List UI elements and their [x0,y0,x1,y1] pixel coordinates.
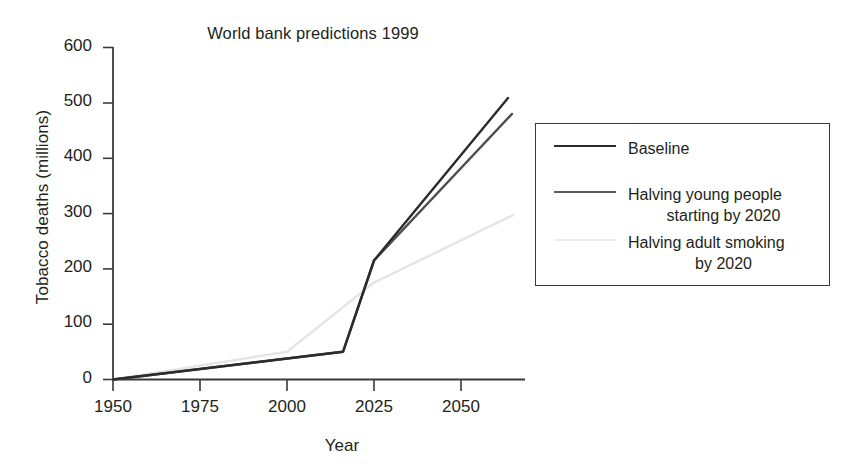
x-tick-label-2050: 2050 [431,397,491,417]
x-tick-label-1975: 1975 [170,397,230,417]
legend-label-halving-adult-smoking: Halving adult smoking by 2020 [628,232,829,274]
legend-label-line2: by 2020 [628,253,819,274]
y-tick-label-100: 100 [48,312,92,332]
chart-figure: World bank predictions 1999 Tobacco deat… [0,0,864,473]
series-line-halving-young-people [113,114,512,380]
legend-label-line1: Halving adult smoking [628,232,819,253]
y-tick-label-200: 200 [48,257,92,277]
x-tick-label-1950: 1950 [83,397,143,417]
x-axis-title: Year [222,436,462,456]
chart-title: World bank predictions 1999 [183,24,443,43]
legend-label-line1: Halving young people [628,184,819,205]
series-line-baseline [113,98,508,380]
y-axis-ticks [103,48,113,380]
y-tick-label-0: 0 [48,368,92,388]
legend: Baseline Halving young people starting b… [535,123,830,286]
x-axis-ticks [113,380,461,392]
legend-label-baseline: Baseline [628,138,829,159]
legend-entry-baseline: Baseline [536,138,829,159]
y-tick-label-300: 300 [48,202,92,222]
legend-swatch-baseline [554,138,616,154]
y-tick-label-600: 600 [48,36,92,56]
legend-swatch-halving-young-people [554,184,616,200]
y-tick-label-500: 500 [48,91,92,111]
y-tick-label-400: 400 [48,146,92,166]
x-tick-label-2000: 2000 [257,397,317,417]
x-tick-label-2025: 2025 [344,397,404,417]
legend-label-line2: starting by 2020 [628,205,819,226]
legend-swatch-halving-adult-smoking [554,232,616,248]
legend-entry-halving-adult-smoking: Halving adult smoking by 2020 [536,232,829,274]
legend-entry-halving-young-people: Halving young people starting by 2020 [536,184,829,226]
legend-label-halving-young-people: Halving young people starting by 2020 [628,184,829,226]
